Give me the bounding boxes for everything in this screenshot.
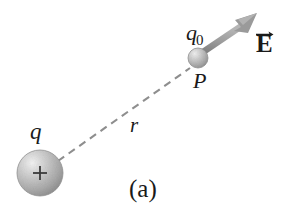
electric-field-arrow <box>203 13 257 52</box>
test-charge-label-subscript: 0 <box>196 32 204 48</box>
positive-source-charge-sphere <box>17 150 63 196</box>
distance-dashed-line <box>58 68 190 161</box>
source-charge-label: q <box>30 120 42 143</box>
field-vector-stack: E <box>256 31 273 56</box>
electric-field-figure: q q0 P r E (a) <box>0 0 289 217</box>
field-vector-label: E <box>256 31 273 56</box>
distance-label: r <box>130 115 138 136</box>
field-arrow-head <box>234 13 257 33</box>
vector-arrow-overbar-icon <box>255 29 274 38</box>
subfigure-caption: (a) <box>129 176 157 201</box>
test-charge-label: q0 <box>186 22 204 48</box>
point-p-label: P <box>193 70 206 92</box>
field-arrow-shaft <box>203 25 243 52</box>
test-charge-sphere <box>188 48 208 68</box>
